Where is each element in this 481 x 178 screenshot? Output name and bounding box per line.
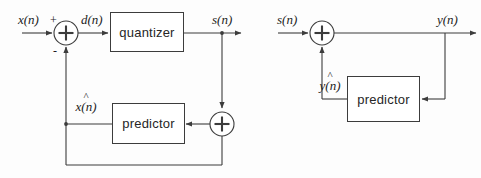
- decoder-prediction-base: y(n): [313, 79, 347, 93]
- difference-label: d(n): [81, 12, 103, 28]
- encoder-predictor-label: predictor: [122, 116, 174, 131]
- diagram-canvas: quantizer predictor x(n) + - d(n) s(n) ^…: [0, 0, 481, 178]
- encoder-prediction-base: x(n): [69, 100, 103, 114]
- decoder-prediction-label: ^ y(n): [313, 72, 347, 93]
- encoder-output-label: s(n): [212, 12, 232, 28]
- encoder-minus-sign: -: [53, 45, 57, 57]
- encoder-plus-sign: +: [50, 14, 57, 26]
- quantizer-block[interactable]: quantizer: [110, 12, 184, 52]
- encoder-prediction-label: ^ x(n): [69, 93, 103, 114]
- quantizer-label: quantizer: [119, 25, 174, 40]
- decoder-output-label: y(n): [437, 12, 458, 28]
- decoder-predictor-block[interactable]: predictor: [347, 76, 420, 122]
- decoder-predictor-label: predictor: [357, 92, 409, 107]
- encoder-predictor-block[interactable]: predictor: [112, 103, 185, 144]
- decoder-input-label: s(n): [277, 12, 297, 28]
- encoder-input-label: x(n): [18, 12, 39, 28]
